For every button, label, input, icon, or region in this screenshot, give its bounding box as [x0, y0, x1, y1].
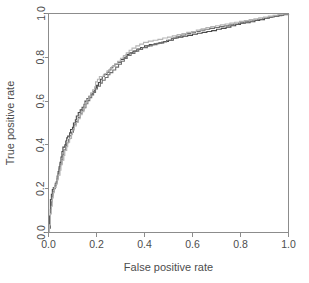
y-axis-title: True positive rate — [4, 81, 16, 166]
x-tick-label: 0.2 — [89, 238, 104, 250]
y-tick-label: 0.8 — [35, 50, 47, 65]
y-tick-label: 0.6 — [35, 94, 47, 109]
roc-curve-curve-1 — [49, 14, 289, 233]
roc-curve-curve-2 — [49, 14, 289, 233]
x-tick-label: 0.8 — [233, 238, 248, 250]
y-tick-label: 0.0 — [35, 225, 47, 240]
roc-chart-figure: 0.00.20.40.60.81.00.00.20.40.60.81.0Fals… — [0, 0, 309, 283]
x-tick-label: 0.6 — [185, 238, 200, 250]
axes-group — [45, 14, 289, 237]
y-tick-label: 0.4 — [35, 137, 47, 152]
plot-area — [49, 14, 289, 233]
x-tick-label: 0.4 — [137, 238, 152, 250]
plot-box-frame — [49, 14, 289, 233]
x-axis-title: False positive rate — [124, 261, 213, 273]
roc-curve-curve-3 — [49, 14, 289, 233]
y-tick-label: 0.2 — [35, 181, 47, 196]
roc-plot-svg: 0.00.20.40.60.81.00.00.20.40.60.81.0Fals… — [0, 0, 309, 283]
y-tick-label: 1.0 — [35, 6, 47, 21]
x-tick-label: 1.0 — [281, 238, 296, 250]
